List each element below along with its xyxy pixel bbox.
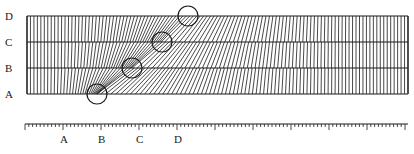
ruler-label-c: C <box>136 133 143 145</box>
row-label-b: B <box>5 62 12 74</box>
line-fan-diagram: D C B A A B C D <box>0 0 414 154</box>
row-label-a: A <box>5 88 13 100</box>
ruler-label-d: D <box>174 133 182 145</box>
ruler <box>25 124 408 130</box>
row-label-c: C <box>5 36 12 48</box>
fan-lines <box>27 16 408 94</box>
row-label-d: D <box>5 10 13 22</box>
ruler-label-a: A <box>60 133 68 145</box>
row-labels: D C B A <box>5 10 13 100</box>
ruler-labels: A B C D <box>60 133 182 145</box>
ruler-label-b: B <box>98 133 105 145</box>
band-frame <box>27 16 408 94</box>
